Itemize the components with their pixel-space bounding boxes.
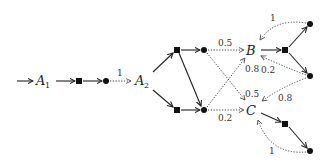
prob-label: 0.2 <box>261 65 275 75</box>
prob-label: 1 <box>117 68 123 78</box>
edge-top-square-to-bottom-circle <box>179 53 201 106</box>
prob-label: 1 <box>270 13 276 23</box>
loop-edge-to-B <box>260 22 306 40</box>
edge-A2-bottom <box>153 90 173 107</box>
diagram: A 1 1 A 2 0.5 0.5 0.8 0.2 B C 1 0.2 0.8 … <box>0 0 332 164</box>
edge-to-B <box>207 58 245 107</box>
distribution-node-circle <box>307 148 313 154</box>
prob-label: 0.5 <box>245 89 260 99</box>
distribution-node-circle <box>201 47 207 53</box>
prob-label: 0.8 <box>245 64 260 74</box>
state-A1: A <box>35 73 45 88</box>
edge <box>289 127 307 148</box>
edge <box>289 53 307 73</box>
state-B: B <box>245 43 256 58</box>
prob-label: 0.2 <box>218 113 232 123</box>
state-A1-subscript: 1 <box>45 81 50 90</box>
state-C: C <box>246 103 256 118</box>
edge <box>289 27 307 47</box>
distribution-node-circle <box>307 21 313 27</box>
action-node-square <box>174 107 180 113</box>
prob-label: 0.8 <box>278 93 293 103</box>
state-A2: A <box>134 73 144 88</box>
edge-to-C <box>207 53 245 100</box>
distribution-node-circle <box>201 107 207 113</box>
action-node-square <box>174 47 180 53</box>
distribution-node-circle <box>103 78 109 84</box>
action-node-square <box>282 121 288 127</box>
mdp-graph: A 1 1 A 2 0.5 0.5 0.8 0.2 B C 1 0.2 0.8 … <box>0 0 332 164</box>
edge <box>261 113 281 122</box>
edge-A2-top <box>153 53 173 72</box>
state-A2-subscript: 2 <box>144 81 149 90</box>
prob-label: 0.5 <box>218 38 233 48</box>
prob-label: 1 <box>269 146 275 156</box>
action-node-square <box>282 47 288 53</box>
distribution-node-circle <box>307 73 313 79</box>
action-node-square <box>76 78 82 84</box>
